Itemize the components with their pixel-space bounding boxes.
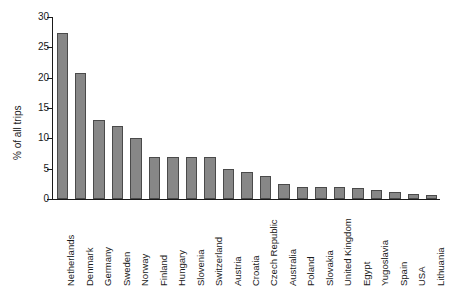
x-axis-category-label: Croatia	[251, 255, 261, 286]
bar	[130, 138, 141, 199]
x-axis-category-label: Yugoslavia	[380, 240, 390, 286]
bar	[149, 157, 160, 199]
x-axis-category-label: Australia	[288, 249, 298, 286]
bar	[315, 187, 326, 199]
bar-slot	[278, 17, 289, 199]
bar	[352, 188, 363, 199]
x-axis-category-label: Slovenia	[196, 250, 206, 286]
bar	[278, 184, 289, 199]
x-axis-category-label: Egypt	[362, 262, 372, 286]
bar-slot	[389, 17, 400, 199]
bar	[371, 190, 382, 199]
bar	[75, 73, 86, 199]
bar	[57, 33, 68, 199]
y-axis-tick-label: 20	[38, 71, 49, 84]
x-axis-category-label: Lithuania	[436, 247, 446, 286]
x-axis-category-label: Hungary	[177, 250, 187, 286]
x-axis-category-label: Germany	[103, 247, 113, 286]
bar	[112, 126, 123, 199]
bar-slot	[297, 17, 308, 199]
bar-slot	[223, 17, 234, 199]
x-axis-category-label: Poland	[306, 256, 316, 286]
y-axis-tick-label: 5	[43, 162, 49, 175]
bar-slot	[130, 17, 141, 199]
x-axis-category-label: Netherlands	[66, 235, 76, 286]
bar	[389, 192, 400, 199]
bar	[260, 176, 271, 199]
bar-slot	[334, 17, 345, 199]
plot-area: 051015202530	[52, 17, 440, 199]
x-axis-category-label: USA	[417, 266, 427, 286]
x-axis-category-label: Czech Republic	[269, 219, 279, 286]
y-axis-tick-label: 25	[38, 40, 49, 53]
x-axis-category-label: Sweden	[122, 252, 132, 286]
bar-slot	[204, 17, 215, 199]
x-axis-category-label: Norway	[140, 254, 150, 286]
bar	[93, 120, 104, 199]
x-axis-category-labels: NetherlandsDenmarkGermanySwedenNorwayFin…	[53, 200, 441, 290]
bar-slot	[426, 17, 437, 199]
bar	[426, 195, 437, 199]
x-axis-category-label: Spain	[399, 262, 409, 286]
x-axis-category-label: Switzerland	[214, 237, 224, 286]
bar-slot	[371, 17, 382, 199]
bar	[297, 187, 308, 199]
bar	[408, 194, 419, 199]
y-axis-tick-label: 0	[43, 192, 49, 205]
x-axis-category-label: Finland	[159, 255, 169, 286]
bar-slot	[75, 17, 86, 199]
bar-slot	[315, 17, 326, 199]
bars-container	[53, 17, 440, 199]
y-axis-tick-label: 10	[38, 131, 49, 144]
bar-slot	[260, 17, 271, 199]
bar-slot	[186, 17, 197, 199]
bar	[204, 157, 215, 199]
bar-slot	[112, 17, 123, 199]
x-axis-category-label: Austria	[233, 256, 243, 286]
bar-chart: % of all trips 051015202530 NetherlandsD…	[0, 0, 457, 292]
bar	[167, 157, 178, 199]
bar	[223, 169, 234, 199]
y-axis-tick-label: 30	[38, 10, 49, 23]
bar-slot	[167, 17, 178, 199]
x-axis-category-label: Denmark	[85, 247, 95, 286]
y-axis-title-container: % of all trips	[0, 0, 24, 200]
bar-slot	[241, 17, 252, 199]
bar-slot	[352, 17, 363, 199]
bar	[186, 157, 197, 199]
y-axis-tick-label: 15	[38, 101, 49, 114]
bar-slot	[149, 17, 160, 199]
x-axis-category-label: Slovakia	[325, 250, 335, 286]
bar	[241, 172, 252, 199]
x-axis-category-label: United Kingdom	[343, 218, 353, 286]
bar-slot	[93, 17, 104, 199]
bar-slot	[408, 17, 419, 199]
y-axis-title: % of all trips	[12, 106, 23, 160]
bar	[334, 187, 345, 199]
bar-slot	[57, 17, 68, 199]
